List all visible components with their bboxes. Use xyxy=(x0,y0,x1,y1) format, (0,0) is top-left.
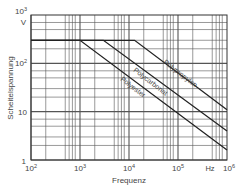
y-tick-10: 10 xyxy=(18,108,27,117)
x-tick-1e5: 105 xyxy=(172,163,184,173)
line-chart: 103 V 102 10 1 Scheitelspannung 102 103 … xyxy=(0,0,239,189)
x-tick-1e2: 102 xyxy=(25,163,37,173)
x-tick-1e4: 104 xyxy=(123,163,135,173)
x-tick-1e6: 106 xyxy=(223,163,235,173)
y-tick-100: 102 xyxy=(15,58,27,68)
x-axis-title: Frequenz xyxy=(112,176,146,185)
y-unit: V xyxy=(21,18,27,27)
y-axis-title: Scheitelspannung xyxy=(6,56,15,120)
x-tick-1e3: 103 xyxy=(74,163,86,173)
y-tick-1000: 103 xyxy=(15,6,27,16)
x-unit: Hz xyxy=(205,164,214,173)
